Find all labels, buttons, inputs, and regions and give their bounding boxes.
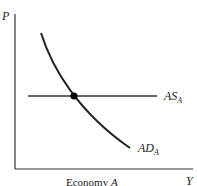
- ad-curve: [41, 33, 130, 148]
- y-axis-label: P: [1, 9, 10, 23]
- as-label: ASA: [163, 89, 182, 105]
- as-ad-diagram: P Y ASA ADA Economy A: [0, 0, 197, 186]
- caption: Economy A: [66, 176, 118, 186]
- equilibrium-point: [71, 93, 78, 100]
- ad-label: ADA: [137, 141, 159, 157]
- x-axis-label: Y: [186, 174, 194, 186]
